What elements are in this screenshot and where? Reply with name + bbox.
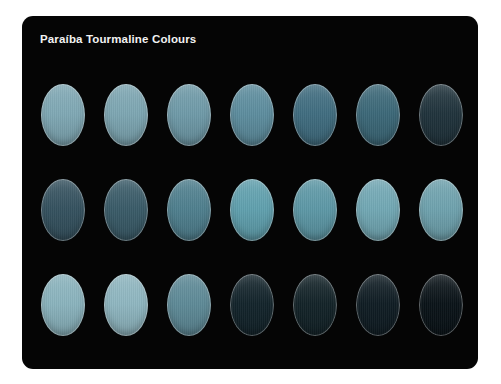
gem-swatch-cell[interactable] bbox=[419, 84, 463, 146]
gem-swatch[interactable] bbox=[293, 274, 337, 336]
gem-row bbox=[41, 84, 473, 146]
gem-swatch-cell[interactable] bbox=[230, 274, 274, 336]
gem-swatch-cell[interactable] bbox=[419, 179, 463, 241]
gem-swatch[interactable] bbox=[293, 84, 337, 146]
gem-swatch[interactable] bbox=[167, 84, 211, 146]
gem-swatch-cell[interactable] bbox=[167, 84, 211, 146]
gem-swatch-cell[interactable] bbox=[356, 84, 400, 146]
gem-swatch-cell[interactable] bbox=[356, 274, 400, 336]
gem-swatch-cell[interactable] bbox=[41, 274, 85, 336]
gem-swatch-grid bbox=[41, 84, 473, 362]
gem-swatch[interactable] bbox=[293, 179, 337, 241]
gem-swatch[interactable] bbox=[356, 84, 400, 146]
page-title: Paraíba Tourmaline Colours bbox=[40, 33, 196, 45]
gem-swatch-cell[interactable] bbox=[230, 179, 274, 241]
gem-swatch-cell[interactable] bbox=[167, 274, 211, 336]
gem-swatch-cell[interactable] bbox=[41, 84, 85, 146]
gem-swatch[interactable] bbox=[230, 84, 274, 146]
gem-swatch-cell[interactable] bbox=[104, 84, 148, 146]
gem-swatch-cell[interactable] bbox=[104, 179, 148, 241]
gem-swatch-cell[interactable] bbox=[293, 179, 337, 241]
swatch-card: Paraíba Tourmaline Colours bbox=[22, 16, 478, 369]
gem-swatch[interactable] bbox=[230, 179, 274, 241]
gem-swatch[interactable] bbox=[41, 84, 85, 146]
page-root: Paraíba Tourmaline Colours bbox=[0, 0, 501, 384]
gem-row bbox=[41, 274, 473, 336]
gem-swatch[interactable] bbox=[356, 179, 400, 241]
gem-swatch[interactable] bbox=[419, 179, 463, 241]
gem-swatch[interactable] bbox=[104, 179, 148, 241]
gem-swatch-cell[interactable] bbox=[419, 274, 463, 336]
gem-swatch-cell[interactable] bbox=[104, 274, 148, 336]
gem-swatch[interactable] bbox=[230, 274, 274, 336]
gem-swatch[interactable] bbox=[104, 84, 148, 146]
gem-swatch[interactable] bbox=[419, 84, 463, 146]
gem-swatch[interactable] bbox=[104, 274, 148, 336]
gem-swatch[interactable] bbox=[167, 274, 211, 336]
gem-swatch[interactable] bbox=[419, 274, 463, 336]
gem-swatch-cell[interactable] bbox=[167, 179, 211, 241]
gem-swatch[interactable] bbox=[356, 274, 400, 336]
gem-swatch-cell[interactable] bbox=[293, 84, 337, 146]
gem-swatch[interactable] bbox=[167, 179, 211, 241]
gem-swatch-cell[interactable] bbox=[41, 179, 85, 241]
gem-swatch-cell[interactable] bbox=[230, 84, 274, 146]
gem-swatch[interactable] bbox=[41, 274, 85, 336]
gem-row bbox=[41, 179, 473, 241]
gem-swatch[interactable] bbox=[41, 179, 85, 241]
gem-swatch-cell[interactable] bbox=[293, 274, 337, 336]
gem-swatch-cell[interactable] bbox=[356, 179, 400, 241]
